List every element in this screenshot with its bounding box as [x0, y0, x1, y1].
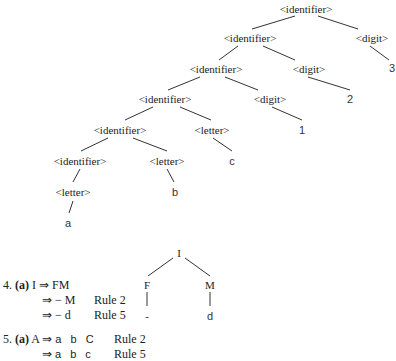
tree-node-identifier: <identifier> — [190, 64, 243, 75]
exercise-part: (a) — [15, 332, 29, 346]
tree-node-identifier: <identifier> — [54, 156, 107, 167]
tree-node-identifier: <identifier> — [139, 94, 192, 105]
derivation-step: a b c — [55, 348, 94, 360]
tree-leaf: 2 — [347, 94, 353, 105]
tree-node-identifier: <identifier> — [280, 4, 333, 15]
tree-leaf: c — [229, 156, 235, 167]
derivation-arrow: ⇒ — [42, 347, 52, 361]
exercise-4-line-3: ⇒ − d — [42, 309, 71, 321]
derivation-step: a b C — [55, 333, 96, 345]
rule-label: Rule 2 — [94, 294, 126, 306]
rule-label: Rule 5 — [94, 309, 126, 321]
derivation-lhs: A ⇒ — [31, 332, 52, 346]
tree-node-letter: <letter> — [55, 187, 90, 198]
rule-label: Rule 2 — [114, 333, 146, 345]
exercise-part: (a) — [15, 278, 29, 292]
tree-node-identifier: <identifier> — [224, 33, 277, 44]
exercise-number: 5. — [3, 332, 12, 346]
tree-leaf: - — [145, 311, 149, 322]
derivation-step: ⇒ − M — [42, 293, 75, 307]
tree-leaf: b — [172, 187, 178, 198]
tree-leaf: d — [207, 311, 213, 322]
tree-node-right: M — [205, 280, 215, 291]
exercise-number: 4. — [3, 278, 12, 292]
exercise-4-line-1: 4. (a) I ⇒ FM — [3, 279, 69, 291]
tree-node-digit: <digit> — [356, 33, 389, 44]
exercise-4-line-2: ⇒ − M — [42, 294, 75, 306]
tree-leaf: a — [65, 218, 71, 229]
derivation-step: ⇒ − d — [42, 308, 71, 322]
derivation-step: I ⇒ FM — [32, 278, 69, 292]
tree-node-left: F — [144, 280, 150, 291]
tree-node-identifier: <identifier> — [94, 125, 147, 136]
tree-node-letter: <letter> — [149, 156, 184, 167]
tree-node-root: I — [177, 248, 181, 259]
tree-node-digit: <digit> — [293, 64, 326, 75]
rule-label: Rule 5 — [114, 348, 146, 360]
tree-node-digit: <digit> — [254, 94, 287, 105]
tree-node-letter: <letter> — [194, 125, 229, 136]
exercise-5-line-2: ⇒ a b c — [42, 348, 94, 360]
exercise-5-line-1: 5. (a) A ⇒ a b C — [3, 333, 97, 345]
tree-leaf: 3 — [389, 63, 395, 74]
tree-leaf: 1 — [299, 125, 305, 136]
